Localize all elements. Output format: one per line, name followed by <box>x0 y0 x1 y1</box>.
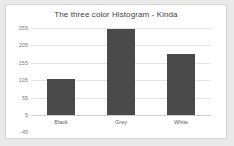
bar[interactable] <box>107 29 135 115</box>
y-axis-tick-label: 5 <box>25 112 28 118</box>
gridline <box>31 115 211 116</box>
chart-title: The three color Histogram - Kinda <box>6 10 226 19</box>
plot-area: 255205155105555-45 BlackGreyWhite <box>31 28 211 115</box>
bar[interactable] <box>47 79 75 115</box>
x-axis-category-label: Black <box>54 119 67 125</box>
y-axis-tick-label: 205 <box>19 42 28 48</box>
y-axis-tick-label: 105 <box>19 77 28 83</box>
y-axis-tick-label: 155 <box>19 60 28 66</box>
chart-panel: The three color Histogram - Kinda 255205… <box>5 4 227 139</box>
y-axis-tick-label: 55 <box>22 95 28 101</box>
y-axis-tick-label: -45 <box>20 129 28 135</box>
bar-group: Grey <box>91 28 151 115</box>
x-axis-category-label: White <box>174 119 188 125</box>
x-axis-category-label: Grey <box>115 119 127 125</box>
bar-group: White <box>151 28 211 115</box>
bar-group: Black <box>31 28 91 115</box>
bar-series: BlackGreyWhite <box>31 28 211 115</box>
y-axis-tick-label: 255 <box>19 25 28 31</box>
bar[interactable] <box>167 54 195 115</box>
